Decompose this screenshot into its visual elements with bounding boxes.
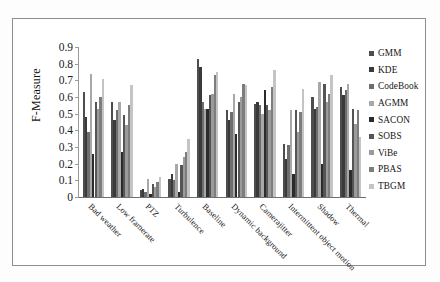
legend-item-label: GMM — [378, 48, 402, 58]
bar — [187, 139, 189, 197]
bar-group — [136, 47, 165, 197]
legend-item: SACON — [369, 111, 435, 128]
legend-swatch-icon — [369, 134, 374, 139]
y-axis-label: F-Measure — [29, 68, 44, 122]
plot-area: 0.90.80.70.60.50.40.30.20.10 — [79, 47, 365, 197]
legend-swatch-icon — [369, 184, 374, 189]
legend-item-label: AGMM — [378, 98, 408, 108]
legend-item: ViBe — [369, 145, 435, 162]
x-axis-category-label: Baseline — [201, 202, 228, 229]
y-axis-tick-label: 0.5 — [59, 108, 73, 120]
x-axis-line — [78, 197, 366, 198]
bar-group — [79, 47, 108, 197]
legend-item-label: PBAS — [378, 164, 402, 174]
legend-swatch-icon — [369, 117, 374, 122]
legend-item: PBAS — [369, 161, 435, 178]
legend-item: SOBS — [369, 128, 435, 145]
y-axis-tick-label: 0.2 — [59, 158, 73, 170]
bar-group — [108, 47, 137, 197]
y-axis-tick-label: 0.6 — [59, 91, 73, 103]
bar-group — [165, 47, 194, 197]
bar-group — [251, 47, 280, 197]
legend-item-label: TBGM — [378, 181, 405, 191]
figure: F-Measure 0.90.80.70.60.50.40.30.20.10 B… — [0, 0, 440, 282]
legend-swatch-icon — [369, 51, 374, 56]
bar — [159, 177, 161, 197]
bar — [330, 75, 332, 197]
legend-item: AGMM — [369, 95, 435, 112]
y-axis-tick-label: 0.1 — [59, 174, 73, 186]
legend: GMMKDECodeBookAGMMSACONSOBSViBePBASTBGM — [369, 45, 435, 194]
legend-swatch-icon — [369, 101, 374, 106]
x-axis-category-label: Dynamic background — [229, 202, 288, 261]
legend-item: CodeBook — [369, 78, 435, 95]
legend-item-label: SOBS — [378, 131, 402, 141]
legend-item: KDE — [369, 62, 435, 79]
x-axis-category-label: Thermal — [344, 202, 371, 229]
bar-group — [193, 47, 222, 197]
legend-item-label: KDE — [378, 65, 397, 75]
bar-group — [336, 47, 365, 197]
legend-item: GMM — [369, 45, 435, 62]
legend-swatch-icon — [369, 150, 374, 155]
y-axis-tick-label: 0.4 — [59, 124, 73, 136]
bar — [359, 137, 361, 197]
y-axis-tick-label: 0 — [67, 191, 73, 203]
bar — [273, 70, 275, 197]
bar — [102, 79, 104, 197]
y-axis-tick-label: 0.9 — [59, 41, 73, 53]
legend-item: TBGM — [369, 178, 435, 195]
chart-frame: F-Measure 0.90.80.70.60.50.40.30.20.10 B… — [12, 18, 426, 266]
y-axis-tick-label: 0.8 — [59, 58, 73, 70]
bar-group — [279, 47, 308, 197]
legend-item-label: CodeBook — [378, 81, 419, 91]
bar-group — [222, 47, 251, 197]
y-axis-tick-mark — [75, 197, 79, 198]
legend-swatch-icon — [369, 84, 374, 89]
bar — [302, 89, 304, 197]
bar-group — [308, 47, 337, 197]
legend-swatch-icon — [369, 167, 374, 172]
bar — [130, 85, 132, 197]
y-axis-tick-label: 0.7 — [59, 74, 73, 86]
legend-swatch-icon — [369, 67, 374, 72]
x-axis-category-label: Shadow — [315, 202, 341, 228]
x-axis-category-label: PTZ — [144, 202, 161, 219]
legend-item-label: SACON — [378, 115, 410, 125]
bar — [245, 85, 247, 197]
y-axis-tick-label: 0.3 — [59, 141, 73, 153]
legend-item-label: ViBe — [378, 148, 397, 158]
bar — [216, 72, 218, 197]
